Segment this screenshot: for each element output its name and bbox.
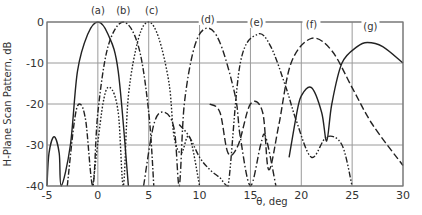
- curve-label-c: (c): [145, 5, 158, 16]
- x-tick-label: 25: [345, 189, 359, 202]
- curve-label-d: (d): [201, 14, 215, 25]
- x-tick-labels: -5051015202530: [42, 189, 410, 202]
- curve-label-a: (a): [91, 5, 105, 16]
- curve-d: [144, 28, 276, 186]
- x-tick-label: 0: [94, 189, 101, 202]
- y-tick-labels: 0-10-20-30-40: [26, 16, 44, 193]
- x-axis-label: θ, deg: [256, 196, 287, 207]
- y-tick-label: -20: [26, 98, 44, 111]
- curve-g: [289, 43, 403, 158]
- y-tick-label: -30: [26, 139, 44, 152]
- y-tick-label: -10: [26, 57, 44, 70]
- y-tick-label: 0: [37, 16, 44, 29]
- curve-label-g: (g): [363, 21, 377, 32]
- curve-e: [179, 34, 352, 186]
- x-tick-label: 5: [145, 189, 152, 202]
- scan-pattern-chart: -5051015202530 0-10-20-30-40 (a)(b)(c)(d…: [0, 0, 422, 215]
- curve-label-b: (b): [116, 5, 130, 16]
- x-tick-label: 10: [193, 189, 207, 202]
- grid: [47, 22, 403, 186]
- curve-label-f: (f): [306, 19, 317, 30]
- y-tick-label: -40: [26, 180, 44, 193]
- y-axis-label: H-Plane Scan Pattern, dB: [2, 41, 13, 166]
- x-tick-label: 20: [294, 189, 308, 202]
- x-tick-label: 15: [243, 189, 257, 202]
- curve-labels: (a)(b)(c)(d)(e)(f)(g): [89, 4, 380, 32]
- curve-label-e: (e): [250, 17, 264, 28]
- x-tick-label: 30: [396, 189, 410, 202]
